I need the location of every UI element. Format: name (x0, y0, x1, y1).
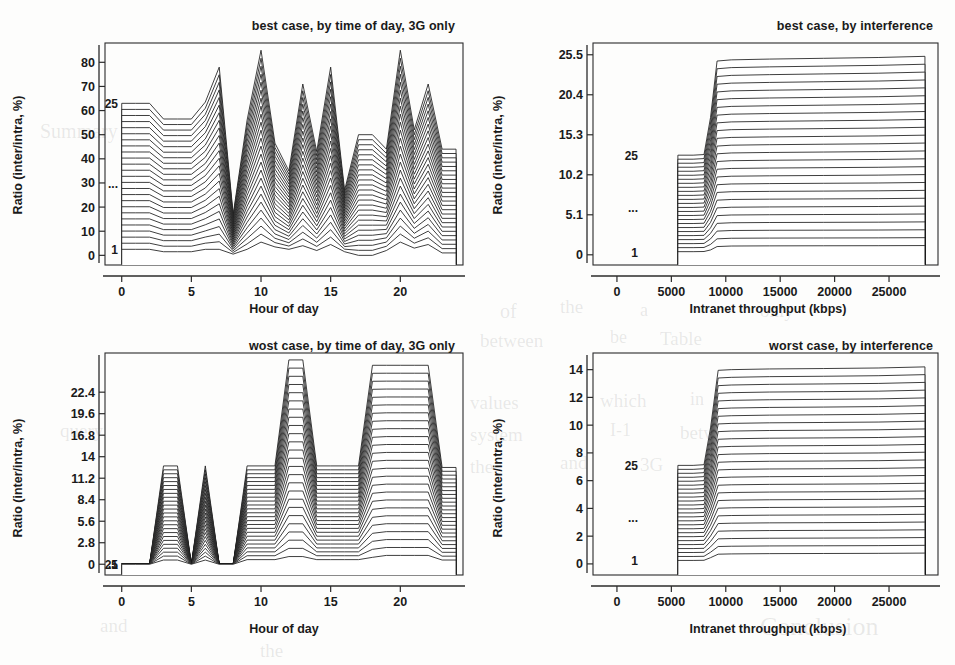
y-tick-label: 5.1 (566, 208, 583, 222)
y-tick-label: 2.8 (78, 536, 95, 550)
plot-area: 05.110.215.320.425.505000100001500020000… (559, 43, 940, 299)
y-tick-label: 8.4 (78, 493, 95, 507)
ridge-label-last: 25 (105, 97, 119, 111)
x-tick-label: 5000 (657, 595, 685, 609)
x-tick-label: 0 (118, 595, 125, 609)
y-tick-label: 5.6 (78, 515, 95, 529)
ridge-label-ellipsis: ... (628, 511, 638, 525)
y-tick-label: 60 (81, 104, 95, 118)
y-tick-label: 10 (81, 225, 95, 239)
y-tick-label: 0 (576, 557, 583, 571)
ridge-label-first: 1 (631, 554, 638, 568)
x-tick-label: 15 (324, 595, 338, 609)
ridge-label-ellipsis: ... (628, 201, 638, 215)
x-tick-label: 10 (254, 595, 268, 609)
x-tick-label: 20000 (817, 595, 852, 609)
panel-title: best case, by time of day, 3G only (252, 19, 455, 33)
y-axis-label: Ratio (inter/intra, %) (11, 419, 25, 538)
ridgeline-curve (678, 553, 925, 580)
x-tick-label: 5 (188, 595, 195, 609)
y-tick-label: 20.4 (559, 88, 583, 102)
x-axis-label: Intranet throughput (kbps) (690, 302, 847, 316)
y-tick-label: 4 (576, 502, 583, 516)
ridgeline-curve (678, 246, 925, 270)
y-tick-label: 14 (569, 363, 583, 377)
y-tick-label: 14 (81, 450, 95, 464)
x-tick-label: 25000 (872, 285, 907, 299)
plot-area: 02468101214050001000015000200002500025..… (569, 353, 940, 609)
y-tick-label: 15.3 (559, 128, 583, 142)
x-tick-label: 5000 (657, 285, 685, 299)
plot-area: 02.85.68.411.21416.819.622.40510152025..… (71, 353, 465, 609)
ridge-label-first: 1 (631, 246, 638, 260)
x-tick-label: 15000 (763, 595, 798, 609)
x-tick-label: 10 (254, 285, 268, 299)
x-tick-label: 15000 (763, 285, 798, 299)
x-tick-label: 0 (613, 595, 620, 609)
y-tick-label: 40 (81, 152, 95, 166)
ridgeline-series (122, 50, 456, 270)
plot-area: 010203040506070800510152025...1 (81, 43, 465, 299)
y-tick-label: 20 (81, 201, 95, 215)
x-tick-label: 20000 (817, 285, 852, 299)
y-axis-label: Ratio (inter/intra, %) (491, 419, 505, 538)
panel-best-case-time-of-day: best case, by time of day, 3G only Ratio… (0, 0, 478, 333)
x-tick-label: 0 (613, 285, 620, 299)
panel-title: wost case, by time of day, 3G only (248, 339, 455, 353)
x-tick-label: 10000 (708, 285, 743, 299)
y-tick-label: 0 (88, 558, 95, 572)
x-tick-label: 10000 (708, 595, 743, 609)
y-tick-label: 6 (576, 474, 583, 488)
panel-title: worst case, by interference (768, 339, 933, 353)
ridge-label-first: 1 (111, 243, 118, 257)
y-tick-label: 12 (569, 391, 583, 405)
y-tick-label: 10 (569, 419, 583, 433)
ridgeline-series (678, 56, 925, 270)
x-axis-label: Intranet throughput (kbps) (690, 622, 847, 636)
y-tick-label: 19.6 (71, 407, 95, 421)
y-tick-label: 11.2 (71, 472, 95, 486)
y-tick-label: 22.4 (71, 386, 95, 400)
ridgeline-figure-grid: best case, by time of day, 3G only Ratio… (0, 0, 955, 665)
y-tick-label: 2 (576, 530, 583, 544)
x-tick-label: 25000 (872, 595, 907, 609)
ridge-label-last: 25 (625, 149, 639, 163)
x-axis-label: Hour of day (249, 302, 318, 316)
y-tick-label: 8 (576, 446, 583, 460)
y-tick-label: 25.5 (559, 48, 583, 62)
ridgeline-series (678, 367, 925, 580)
ridgeline-series (122, 360, 456, 580)
y-axis-label: Ratio (inter/intra, %) (491, 96, 505, 215)
panel-worst-case-time-of-day: wost case, by time of day, 3G only Ratio… (0, 333, 478, 665)
y-tick-label: 50 (81, 128, 95, 142)
panel-best-case-interference: best case, by interference Ratio (inter/… (478, 0, 955, 333)
x-tick-label: 5 (188, 285, 195, 299)
y-tick-label: 0 (576, 248, 583, 262)
y-tick-label: 0 (88, 249, 95, 263)
x-tick-label: 20 (393, 285, 407, 299)
ridge-label-last: 25 (625, 459, 639, 473)
panel-worst-case-interference: worst case, by interference Ratio (inter… (478, 333, 955, 665)
x-axis-label: Hour of day (249, 622, 318, 636)
y-axis-label: Ratio (inter/intra, %) (11, 96, 25, 215)
panel-title: best case, by interference (777, 19, 933, 33)
y-tick-label: 80 (81, 56, 95, 70)
y-tick-label: 30 (81, 176, 95, 190)
y-tick-label: 16.8 (71, 429, 95, 443)
y-tick-label: 70 (81, 80, 95, 94)
x-tick-label: 15 (324, 285, 338, 299)
y-tick-label: 10.2 (559, 168, 583, 182)
ridge-label-ellipsis: ... (108, 177, 118, 191)
ridge-label-first: 1 (111, 558, 118, 572)
x-tick-label: 0 (118, 285, 125, 299)
x-tick-label: 20 (393, 595, 407, 609)
